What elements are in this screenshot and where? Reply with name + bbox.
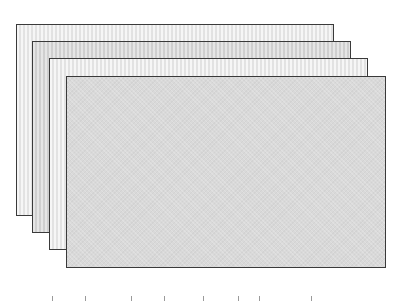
marker-tick (164, 296, 165, 301)
stacked-sheets-diagram (0, 0, 402, 304)
marker-tick (52, 296, 53, 301)
sheet-4 (66, 76, 386, 268)
marker-tick (259, 296, 260, 301)
marker-tick (85, 296, 86, 301)
marker-tick (311, 296, 312, 301)
marker-tick (238, 296, 239, 301)
marker-tick (203, 296, 204, 301)
marker-tick (131, 296, 132, 301)
